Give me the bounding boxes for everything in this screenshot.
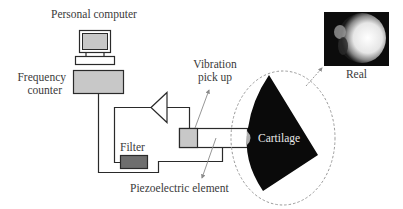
amplifier-icon: [151, 93, 167, 123]
measurement-setup-diagram: [0, 0, 403, 209]
vibration-pickup-arrow: [195, 90, 209, 128]
personal-computer-label: Personal computer: [38, 8, 150, 21]
vibration-pickup-label-line1: Vibration: [185, 58, 245, 71]
frequency-counter-box: [74, 71, 124, 94]
real-image: [324, 12, 389, 66]
real-image-arrow: [306, 68, 322, 86]
filter-box: [121, 156, 148, 169]
cartilage-label: Cartilage: [258, 132, 300, 145]
vibration-pickup-box: [180, 129, 198, 148]
piezoelectric-element-label: Piezoelectric element: [130, 182, 229, 195]
personal-computer-icon: [76, 31, 115, 65]
vibration-pickup-label-line2: pick up: [185, 71, 245, 84]
frequency-counter-label-line2: counter: [10, 84, 62, 97]
filter-label: Filter: [120, 141, 145, 154]
real-label: Real: [324, 68, 389, 81]
frequency-counter-label-line1: Frequency: [10, 71, 66, 84]
